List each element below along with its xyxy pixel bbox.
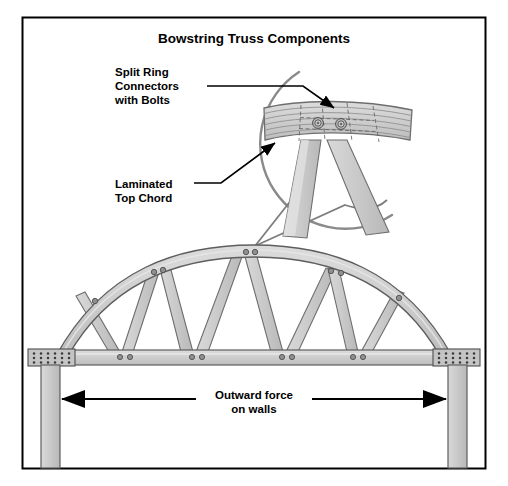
force-label-line2: on walls: [231, 403, 276, 415]
bowstring-truss-figure: Bowstring Truss Components: [0, 0, 508, 486]
wall-column-left: [41, 365, 60, 468]
split-ring-bolt-2: [336, 119, 347, 130]
callout-split-ring-line1: Split Ring: [115, 66, 169, 78]
callout-split-ring-line3: with Bolts: [114, 94, 170, 106]
bottom-chord: [44, 350, 464, 365]
diagram-canvas: Bowstring Truss Components: [0, 0, 508, 486]
bearing-plate-right: [433, 349, 480, 366]
callout-laminated-line2: Top Chord: [115, 192, 172, 204]
bearing-plate-left: [28, 349, 75, 366]
top-bolt-left-outer: [92, 298, 97, 303]
wall-column-right: [448, 365, 467, 468]
top-bolt-right-outer: [396, 295, 401, 300]
callout-laminated-line1: Laminated: [115, 178, 173, 190]
callout-split-ring-line2: Connectors: [115, 80, 179, 92]
force-label-line1: Outward force: [215, 389, 293, 401]
figure-title: Bowstring Truss Components: [158, 31, 350, 46]
split-ring-bolt-1: [313, 118, 324, 129]
